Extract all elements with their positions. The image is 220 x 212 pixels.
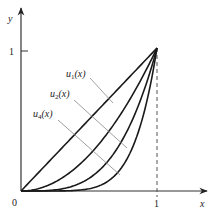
u4-label: u4(x) (33, 108, 53, 121)
origin-label: 0 (12, 197, 17, 208)
x-tick-label: 1 (154, 198, 159, 209)
u2-label: u2(x) (50, 88, 70, 101)
u1-leader-line (90, 78, 113, 103)
y-axis-label: y (7, 13, 13, 24)
function-family-diagram: y x 0 1 1 u1(x) u2(x) u4(x) (0, 0, 220, 212)
x-axis-label: x (199, 198, 205, 209)
y-tick-label: 1 (9, 46, 14, 57)
u1-label: u1(x) (66, 68, 86, 81)
